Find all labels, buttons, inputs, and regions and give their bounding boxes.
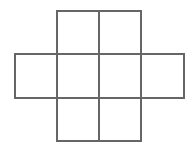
cell-middle-3 [99,54,141,98]
cell-bottom-right [99,98,141,141]
figure-canvas [0,0,194,148]
cell-middle-4 [141,54,184,98]
cell-middle-1 [15,54,57,98]
cross-net-diagram [0,0,194,148]
cell-middle-2 [57,54,99,98]
cell-bottom-left [57,98,99,141]
cell-top-right [99,11,141,54]
cell-top-left [57,11,99,54]
